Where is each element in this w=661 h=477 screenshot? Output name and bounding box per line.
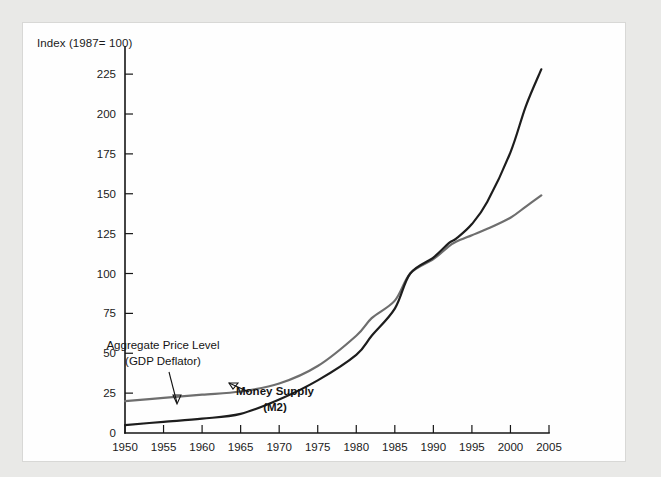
y-tick-label: 150 [97, 188, 116, 200]
series-line-money [125, 69, 541, 425]
annotation-deflator-line1: Aggregate Price Level [106, 339, 219, 351]
x-tick-label: 1960 [189, 441, 215, 453]
x-axis: 1950195519601965197019751980198519901995… [112, 425, 562, 453]
y-tick-label: 100 [97, 268, 116, 280]
y-tick-label: 225 [97, 68, 116, 80]
x-tick-label: 1980 [343, 441, 369, 453]
y-tick-label: 0 [110, 427, 116, 439]
figure-root: Index (1987= 100) 0255075100125150175200… [0, 0, 661, 477]
annotation-money: Money Supply (M2) [229, 383, 315, 413]
y-tick-label: 75 [103, 307, 116, 319]
annotation-deflator-line2: (GDP Deflator) [125, 355, 201, 367]
x-tick-label: 1970 [266, 441, 292, 453]
y-axis: 0255075100125150175200225 [97, 47, 133, 439]
x-tick-label: 1990 [421, 441, 447, 453]
x-tick-label: 1995 [459, 441, 485, 453]
x-tick-label: 1975 [305, 441, 331, 453]
y-tick-label: 175 [97, 148, 116, 160]
x-tick-label: 2005 [536, 441, 562, 453]
x-tick-label: 1965 [228, 441, 254, 453]
x-tick-label: 1985 [382, 441, 408, 453]
x-tick-label: 1950 [112, 441, 138, 453]
annotation-money-line2: (M2) [263, 401, 287, 413]
y-tick-label: 200 [97, 108, 116, 120]
chart-plot: 0255075100125150175200225 19501955196019… [23, 23, 626, 462]
y-tick-label: 25 [103, 387, 116, 399]
x-tick-label: 2000 [498, 441, 524, 453]
x-tick-label: 1955 [151, 441, 177, 453]
chart-panel: Index (1987= 100) 0255075100125150175200… [22, 22, 626, 462]
y-tick-label: 125 [97, 228, 116, 240]
series-group [125, 69, 541, 425]
